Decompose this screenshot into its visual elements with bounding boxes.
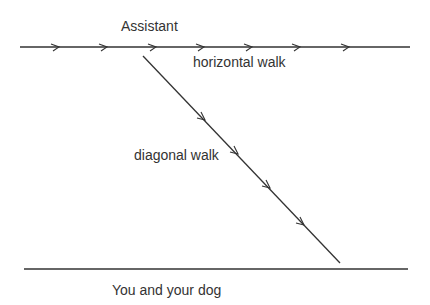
you-and-your-dog-label: You and your dog <box>112 282 221 298</box>
diagram: Assistant horizontal walk diagonal walk … <box>0 0 430 305</box>
assistant-label: Assistant <box>121 18 178 34</box>
arrow-icon <box>230 146 238 154</box>
horizontal-walk-label: horizontal walk <box>193 54 286 70</box>
diagonal-walk-label: diagonal walk <box>134 147 219 163</box>
arrow-icon <box>262 180 270 188</box>
